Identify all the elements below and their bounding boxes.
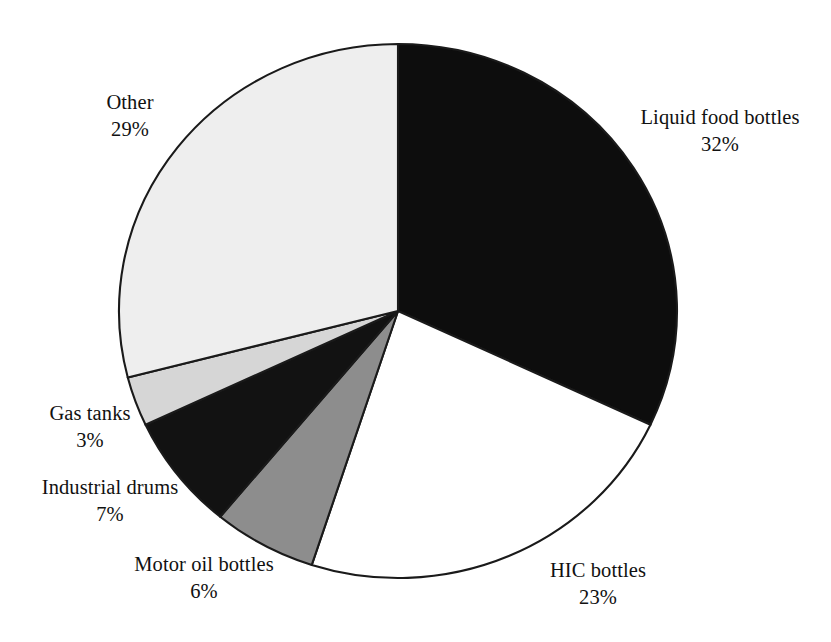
slice-label-value: 32% bbox=[614, 131, 826, 158]
slice-label-liquid-food-bottles: Liquid food bottles 32% bbox=[614, 104, 826, 157]
slice-label-value: 3% bbox=[10, 427, 170, 454]
slice-label-name: HIC bottles bbox=[492, 557, 704, 584]
slice-label-name: Other bbox=[62, 89, 198, 116]
slice-label-value: 7% bbox=[12, 501, 208, 528]
slice-label-name: Motor oil bottles bbox=[96, 551, 312, 578]
slice-label-value: 29% bbox=[62, 116, 198, 143]
slice-label-value: 6% bbox=[96, 578, 312, 605]
slice-label-gas-tanks: Gas tanks 3% bbox=[10, 400, 170, 453]
slice-label-name: Liquid food bottles bbox=[614, 104, 826, 131]
slice-label-motor-oil-bottles: Motor oil bottles 6% bbox=[96, 551, 312, 604]
pie-chart: Liquid food bottles 32% HIC bottles 23% … bbox=[0, 0, 831, 642]
slice-label-name: Gas tanks bbox=[10, 400, 170, 427]
slice-label-industrial-drums: Industrial drums 7% bbox=[12, 474, 208, 527]
slice-label-other: Other 29% bbox=[62, 89, 198, 142]
slice-label-name: Industrial drums bbox=[12, 474, 208, 501]
slice-label-hic-bottles: HIC bottles 23% bbox=[492, 557, 704, 610]
slice-label-value: 23% bbox=[492, 584, 704, 611]
